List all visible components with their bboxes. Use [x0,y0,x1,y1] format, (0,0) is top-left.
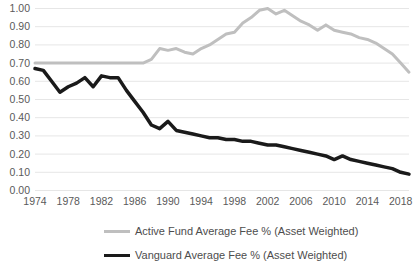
y-tick-label-7: 0.70 [10,58,30,69]
legend-swatch-active-fund-icon [104,230,130,233]
x-tick-label-11: 2018 [381,196,417,207]
chart-legend: Active Fund Average Fee % (Asset Weighte… [0,219,417,267]
series-line-vanguard [35,69,409,175]
data-series-layer [35,9,409,175]
y-tick-label-8: 0.80 [10,39,30,50]
y-tick-label-2: 0.20 [10,149,30,160]
y-tick-label-9: 0.90 [10,21,30,32]
legend-label-vanguard: Vanguard Average Fee % (Asset Weighted) [135,250,347,261]
legend-item-active-fund: Active Fund Average Fee % (Asset Weighte… [0,219,417,243]
y-tick-label-10: 1.00 [10,3,30,14]
y-tick-label-4: 0.40 [10,112,30,123]
legend-swatch-vanguard-icon [104,254,130,257]
y-tick-label-1: 0.10 [10,167,30,178]
legend-label-active-fund: Active Fund Average Fee % (Asset Weighte… [135,226,358,237]
y-tick-label-3: 0.30 [10,130,30,141]
y-tick-label-0: 0.00 [10,185,30,196]
y-tick-label-5: 0.50 [10,94,30,105]
line-chart: 0.000.100.200.300.400.500.600.700.800.90… [0,0,417,267]
y-tick-label-6: 0.60 [10,76,30,87]
legend-item-vanguard: Vanguard Average Fee % (Asset Weighted) [0,243,417,267]
